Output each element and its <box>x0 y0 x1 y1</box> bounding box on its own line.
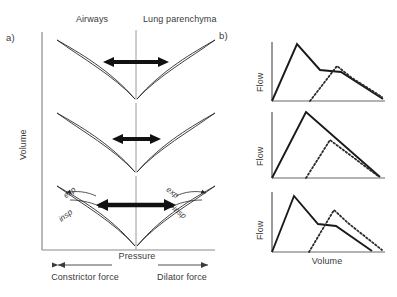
flow-label-2: Flow <box>255 147 265 166</box>
figure-container: a) Airways Lung parenchyma Volume Pressu… <box>0 0 397 297</box>
figure-vector-layer <box>0 0 397 297</box>
flow-volume-plot-3-solid <box>272 196 372 252</box>
flow-label-1: Flow <box>255 73 265 92</box>
flow-label-3: Flow <box>255 221 265 240</box>
panel-b-x-axis-label: Volume <box>297 256 357 266</box>
constrictor-force-arrow <box>58 262 112 268</box>
flow-volume-plot-3-dotted <box>309 210 382 252</box>
flow-volume-plot-3-axes <box>272 192 385 252</box>
flow-volume-plot-1-dotted <box>310 66 382 101</box>
dilator-force-arrow <box>158 262 208 268</box>
flow-volume-plot-2-dotted <box>306 140 378 178</box>
flow-volume-plot-1-solid <box>272 44 383 101</box>
panel-b-letter: b) <box>219 30 228 41</box>
